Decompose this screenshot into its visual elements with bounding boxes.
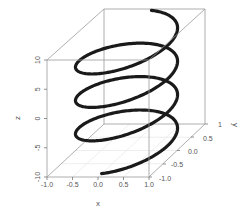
z-tick-label: -10 [34, 172, 41, 182]
z-axis-label: z [13, 116, 22, 120]
z-tick-label: 0 [34, 116, 41, 120]
x-tick-label: 0.5 [119, 181, 129, 188]
x-tick-label: -0.5 [66, 181, 78, 188]
z-tick-label: -5 [34, 145, 41, 151]
y-tick-label: 1 [218, 121, 222, 128]
x-axis: -1.0 -0.5 0.0 0.5 1.0 x [41, 177, 154, 208]
plot-box-front [47, 9, 205, 177]
y-tick-label: 0.0 [188, 148, 198, 155]
x-axis-label: x [96, 199, 100, 208]
x-tick-label: -1.0 [41, 181, 53, 188]
x-tick-label: 0.0 [93, 181, 103, 188]
helix-line [75, 10, 177, 173]
z-axis: -10 -5 0 5 10 z [13, 56, 47, 182]
z-tick-label: 5 [34, 87, 41, 91]
y-tick-label: -0.5 [171, 161, 183, 168]
z-tick-label: 10 [34, 56, 41, 64]
y-tick-label: 0.5 [203, 135, 213, 142]
plot-box-back [47, 9, 205, 177]
y-axis-label: y [231, 123, 240, 127]
x-tick-label: 1.0 [144, 181, 154, 188]
y-tick-label: -1.0 [159, 175, 171, 182]
helix-3d-chart: -1.0 -0.5 0.0 0.5 1.0 x -1.0 -0.5 0.0 0.… [0, 0, 252, 219]
